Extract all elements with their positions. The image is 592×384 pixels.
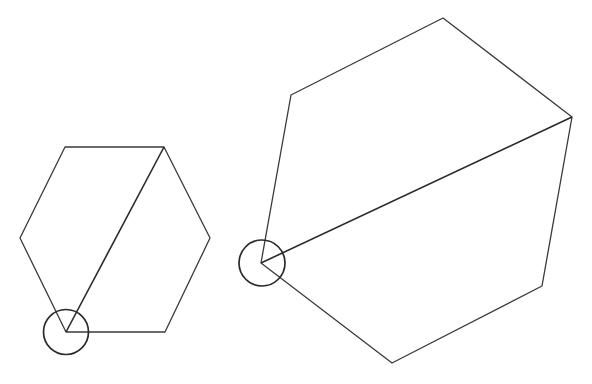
small-hexagon-figure: [20, 147, 210, 355]
large-hexagon-diagonal: [261, 117, 572, 263]
small-hexagon-diagonal: [66, 147, 164, 332]
hexagon-diagram: [0, 0, 592, 384]
large-hexagon-figure: [239, 18, 572, 363]
diagram-canvas: [0, 0, 592, 384]
